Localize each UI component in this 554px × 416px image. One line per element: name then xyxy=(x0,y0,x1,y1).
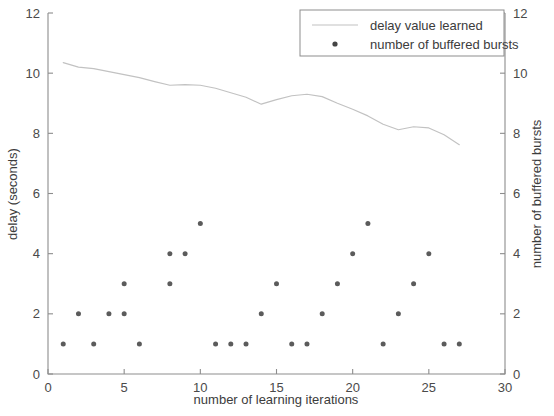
delay-value-line xyxy=(63,63,459,145)
scatter-point xyxy=(213,341,218,346)
scatter-point xyxy=(457,341,462,346)
scatter-point xyxy=(76,311,81,316)
x-tick-label: 25 xyxy=(422,380,436,395)
x-tick-label: 5 xyxy=(121,380,128,395)
chart-canvas: 024681012 024681012 051015202530 number … xyxy=(0,0,554,416)
y-tick-label-left: 2 xyxy=(33,306,40,321)
y-tick-label-right: 10 xyxy=(513,66,527,81)
scatter-point xyxy=(381,341,386,346)
y-axis-label-right: number of buffered bursts xyxy=(529,119,544,268)
y-tick-label-right: 2 xyxy=(513,306,520,321)
y-tick-label-right: 6 xyxy=(513,186,520,201)
axis-spines xyxy=(48,13,505,374)
y-tick-label-right: 8 xyxy=(513,126,520,141)
scatter-point xyxy=(91,341,96,346)
scatter-point xyxy=(137,341,142,346)
x-axis-label: number of learning iterations xyxy=(194,392,359,407)
scatter-point xyxy=(426,251,431,256)
scatter-point xyxy=(396,311,401,316)
scatter-point xyxy=(61,341,66,346)
x-tick-label: 0 xyxy=(44,380,51,395)
legend-dot-swatch xyxy=(332,41,337,46)
legend-label-delay: delay value learned xyxy=(370,18,483,33)
y-tick-label-left: 10 xyxy=(26,66,40,81)
scatter-point xyxy=(289,341,294,346)
axis-frame xyxy=(48,13,505,374)
scatter-point xyxy=(106,311,111,316)
y-tick-label-left: 6 xyxy=(33,186,40,201)
scatter-point xyxy=(335,281,340,286)
x-tick-label: 30 xyxy=(498,380,512,395)
scatter-point xyxy=(365,221,370,226)
scatter-point xyxy=(183,251,188,256)
scatter-point xyxy=(167,281,172,286)
y-tick-label-left: 4 xyxy=(33,246,40,261)
legend-label-bursts: number of buffered bursts xyxy=(370,37,519,52)
y-tick-label-right: 4 xyxy=(513,246,520,261)
left-axis-ticks: 024681012 xyxy=(26,6,53,382)
scatter-point xyxy=(259,311,264,316)
y-tick-label-right: 12 xyxy=(513,6,527,21)
scatter-point xyxy=(442,341,447,346)
buffered-bursts-scatter xyxy=(61,221,462,346)
chart-legend: delay value learned number of buffered b… xyxy=(300,10,519,56)
y-axis-label-left: delay (seconds) xyxy=(5,148,20,240)
scatter-point xyxy=(350,251,355,256)
scatter-point xyxy=(411,281,416,286)
scatter-point xyxy=(228,341,233,346)
y-tick-label-left: 8 xyxy=(33,126,40,141)
chart-figure: 024681012 024681012 051015202530 number … xyxy=(0,0,554,416)
right-axis-ticks: 024681012 xyxy=(500,6,527,382)
scatter-point xyxy=(304,341,309,346)
scatter-point xyxy=(274,281,279,286)
y-tick-label-left: 0 xyxy=(33,367,40,382)
scatter-point xyxy=(122,311,127,316)
scatter-point xyxy=(167,251,172,256)
scatter-point xyxy=(244,341,249,346)
y-tick-label-left: 12 xyxy=(26,6,40,21)
scatter-point xyxy=(198,221,203,226)
y-tick-label-right: 0 xyxy=(513,367,520,382)
scatter-point xyxy=(320,311,325,316)
scatter-point xyxy=(122,281,127,286)
